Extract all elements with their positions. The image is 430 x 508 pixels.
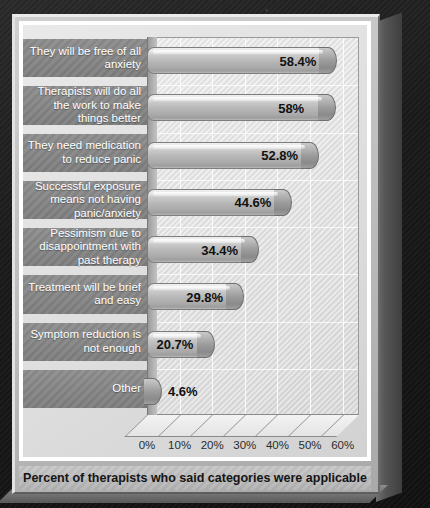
gridline-horizontal [147,133,358,134]
category-label-text: Treatment will be brief and easy [27,281,141,308]
x-tick-30%: 30% [233,439,256,451]
category-label-text: They need medication to reduce panic [27,139,141,166]
chart-canvas: They will be free of all anxietyTherapis… [23,25,367,457]
bar-value-label-4: 44.6% [234,195,271,210]
category-label-8: Other [23,370,147,408]
gridline-horizontal [147,227,358,228]
chart-inner-frame: They will be free of all anxietyTherapis… [19,21,371,461]
bar-value-label-1: 58.4% [279,53,316,68]
gridline-horizontal [147,322,358,323]
category-label-7: Symptom reduction is not enough [23,323,147,361]
bar-8 [147,378,162,405]
gridline-horizontal [147,369,358,370]
chart-caption: Percent of therapists who said categorie… [19,466,371,490]
category-label-3: They need medication to reduce panic [23,134,147,172]
gridline-horizontal [147,274,358,275]
bar-value-label-2: 58% [278,100,304,115]
category-label-text: Successful exposure means not having pan… [27,180,141,221]
bar-2 [147,94,336,121]
category-label-4: Successful exposure means not having pan… [23,181,147,219]
category-label-text: Therapists will do all the work to make … [27,85,141,126]
gridline-horizontal [147,85,358,86]
category-label-5: Pessimism due to disappointment with pas… [23,228,147,266]
x-tick-20%: 20% [201,439,224,451]
bar-value-label-8: 4.6% [168,384,198,399]
category-label-text: They will be free of all anxiety [27,45,141,72]
gridline-horizontal [147,180,358,181]
bar-value-label-6: 29.8% [186,289,223,304]
gridline-vertical [343,38,344,414]
bar-end-cap [144,378,162,405]
category-label-text: Pessimism due to disappointment with pas… [27,227,141,268]
bar-value-label-3: 52.8% [261,148,298,163]
bar-value-label-5: 34.4% [201,242,238,257]
x-tick-40%: 40% [266,439,289,451]
category-label-text: Other [112,382,141,396]
category-label-6: Treatment will be brief and easy [23,275,147,313]
category-label-1: They will be free of all anxiety [23,39,147,77]
category-label-2: Therapists will do all the work to make … [23,86,147,124]
x-tick-60%: 60% [331,439,354,451]
x-tick-50%: 50% [299,439,322,451]
plot-floor [147,415,367,437]
category-label-text: Symptom reduction is not enough [27,328,141,355]
bar-value-label-7: 20.7% [157,337,194,352]
category-label-column: They will be free of all anxietyTherapis… [23,25,147,457]
x-axis-tick-labels: 0%10%20%30%40%50%60% [147,439,367,457]
x-tick-0%: 0% [139,439,156,451]
caption-text: Percent of therapists who said categorie… [23,471,367,485]
x-tick-10%: 10% [168,439,191,451]
